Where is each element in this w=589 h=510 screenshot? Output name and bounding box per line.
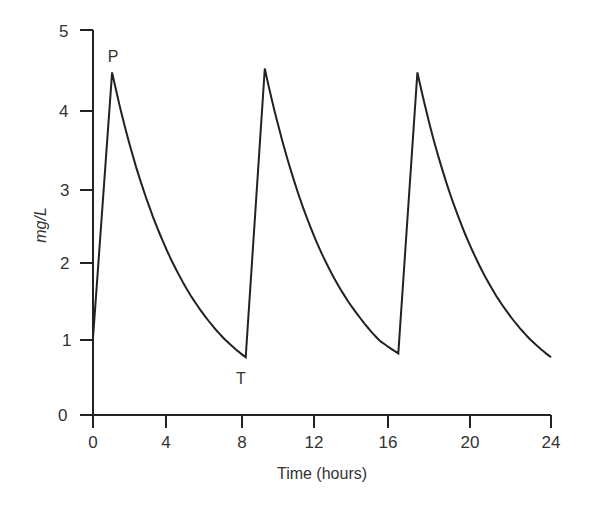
x-tick-label: 8 bbox=[237, 433, 246, 452]
pharmacokinetic-line-chart: 0 1 2 3 4 5 0 4 8 12 16 20 24 Time (hour… bbox=[0, 0, 589, 510]
y-tick-label: 0 bbox=[58, 406, 67, 425]
y-axis-title: mg/L bbox=[32, 207, 49, 243]
x-tick-label: 24 bbox=[542, 433, 561, 452]
x-tick-label: 20 bbox=[461, 433, 480, 452]
x-tick-label: 16 bbox=[379, 433, 398, 452]
x-tick-label: 0 bbox=[88, 433, 97, 452]
trough-label: T bbox=[236, 370, 246, 387]
y-ticks: 0 1 2 3 4 5 bbox=[58, 22, 93, 425]
y-tick-label: 1 bbox=[62, 331, 71, 350]
y-tick-label: 2 bbox=[60, 254, 69, 273]
y-tick-label: 3 bbox=[60, 181, 69, 200]
x-ticks: 0 4 8 12 16 20 24 bbox=[88, 415, 560, 452]
peak-label: P bbox=[108, 48, 119, 65]
x-axis-title: Time (hours) bbox=[277, 465, 367, 482]
y-tick-label: 5 bbox=[59, 22, 68, 41]
x-tick-label: 12 bbox=[305, 433, 324, 452]
axes bbox=[93, 30, 551, 415]
y-tick-label: 4 bbox=[59, 102, 68, 121]
x-tick-label: 4 bbox=[161, 433, 170, 452]
concentration-curve bbox=[93, 69, 551, 358]
